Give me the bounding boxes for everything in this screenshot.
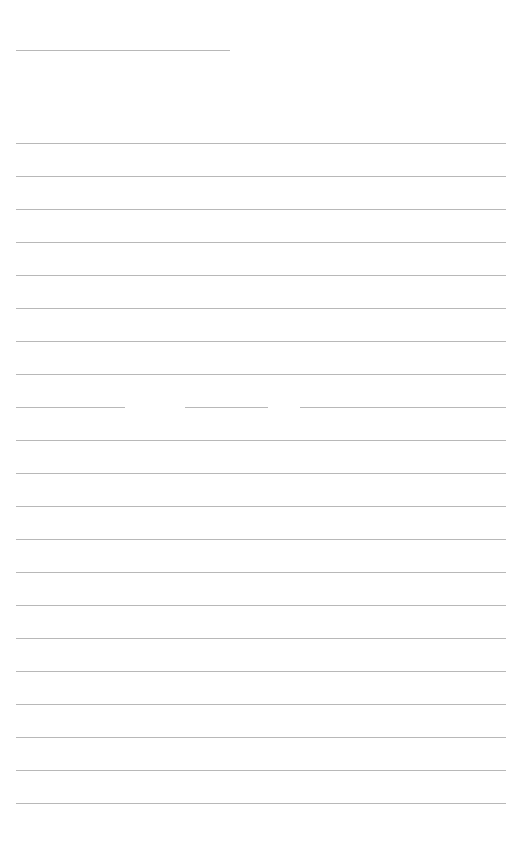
ruled-line-segment — [300, 407, 506, 408]
ruled-line-segment — [16, 407, 125, 408]
ruled-line-segment — [185, 407, 268, 408]
ruled-line — [16, 638, 506, 639]
ruled-line — [16, 176, 506, 177]
ruled-line — [16, 242, 506, 243]
ruled-line — [16, 209, 506, 210]
ruled-line — [16, 473, 506, 474]
ruled-line — [16, 737, 506, 738]
ruled-line — [16, 704, 506, 705]
ruled-line — [16, 506, 506, 507]
ruled-line — [16, 572, 506, 573]
ruled-line — [16, 374, 506, 375]
ruled-line — [16, 275, 506, 276]
ruled-line — [16, 440, 506, 441]
ruled-line — [16, 143, 506, 144]
ruled-line — [16, 308, 506, 309]
ruled-line — [16, 803, 506, 804]
ruled-line — [16, 671, 506, 672]
ruled-line — [16, 539, 506, 540]
ruled-line — [16, 341, 506, 342]
ruled-line — [16, 770, 506, 771]
ruled-line — [16, 605, 506, 606]
header-line — [16, 50, 230, 51]
